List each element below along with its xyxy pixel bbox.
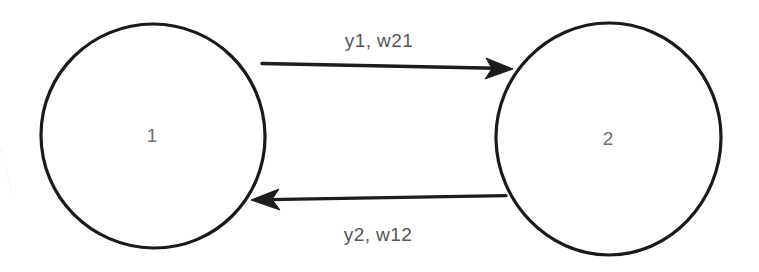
scan-artifact-smudge — [0, 146, 13, 200]
edge-2-to-1-label: y2, w12 — [344, 224, 412, 245]
diagram-canvas: 1 2 y1, w21 y2, w12 — [0, 0, 759, 272]
edge-1-to-2-line — [262, 64, 496, 69]
edge-2-to-1[interactable]: y2, w12 — [251, 189, 506, 245]
node-1[interactable]: 1 — [41, 24, 265, 248]
edge-1-to-2[interactable]: y1, w21 — [262, 30, 513, 79]
node-2[interactable]: 2 — [496, 23, 721, 255]
edge-1-to-2-label: y1, w21 — [345, 30, 413, 51]
node-1-label: 1 — [147, 125, 158, 146]
graph-diagram: 1 2 y1, w21 y2, w12 — [0, 0, 759, 272]
edge-2-to-1-line — [268, 196, 506, 200]
node-2-label: 2 — [603, 128, 614, 149]
